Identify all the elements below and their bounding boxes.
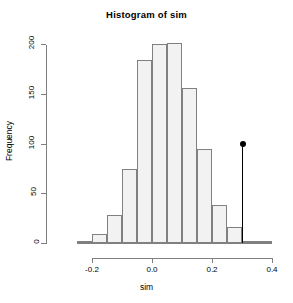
x-axis-tick-label: 0.2 — [192, 265, 232, 274]
x-axis-tick — [152, 258, 153, 263]
x-axis-title: sim — [0, 282, 293, 292]
y-axis-tick — [41, 144, 46, 145]
histogram-bar — [137, 60, 152, 243]
histogram-bar — [152, 44, 167, 243]
observed-value-line — [242, 144, 243, 243]
histogram-bar — [212, 205, 227, 243]
y-axis-tick-label-text: 150 — [27, 86, 36, 99]
y-axis-tick — [41, 243, 46, 244]
y-axis-tick — [41, 44, 46, 45]
y-axis-tick-label-text: 200 — [27, 36, 36, 49]
x-axis-tick-label: 0.4 — [252, 265, 292, 274]
observed-value-point — [240, 141, 246, 147]
histogram-plot: Histogram of sim 050100150200-0.20.00.20… — [0, 0, 293, 303]
histogram-bar — [92, 234, 107, 243]
y-axis-line — [46, 45, 47, 244]
histogram-bar — [122, 169, 137, 243]
x-axis-tick — [272, 258, 273, 263]
y-axis-tick-label: 150 — [0, 88, 38, 97]
x-axis-tick-label: -0.2 — [72, 265, 112, 274]
y-axis-tick — [41, 193, 46, 194]
y-axis-tick-label-text: 0 — [31, 239, 40, 243]
baseline — [77, 243, 272, 244]
y-axis-tick-label: 200 — [0, 38, 38, 47]
plot-panel: 050100150200-0.20.00.20.4 — [0, 0, 293, 303]
histogram-bar — [167, 43, 182, 243]
x-axis-tick — [212, 258, 213, 263]
x-axis-tick-label: 0.0 — [132, 265, 172, 274]
x-axis-tick — [92, 258, 93, 263]
y-axis-tick-label-text: 100 — [27, 136, 36, 149]
histogram-bar — [182, 88, 197, 243]
x-axis-line — [92, 258, 273, 259]
y-axis-tick-label-text: 50 — [29, 187, 38, 196]
y-axis-tick — [41, 94, 46, 95]
histogram-bar — [107, 215, 122, 243]
y-axis-tick-label: 50 — [0, 187, 38, 196]
y-axis-title: Frequency — [4, 101, 14, 181]
histogram-bar — [197, 149, 212, 243]
histogram-bar — [227, 227, 242, 243]
y-axis-tick-label: 0 — [0, 237, 38, 246]
